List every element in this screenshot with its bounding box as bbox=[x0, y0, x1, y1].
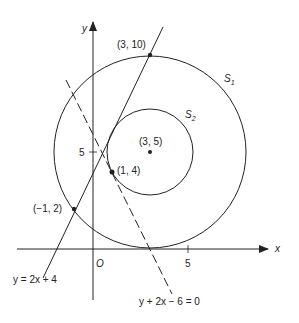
equation-label-solid-line: y = 2x + 4 bbox=[13, 274, 57, 285]
circle-s2-label: S2 bbox=[185, 109, 196, 122]
y-tick-5-label: 5 bbox=[79, 147, 85, 158]
diagram-canvas: y x O 5 5 (3, 10) (3, 5) (1, 4) (−1, 2) … bbox=[0, 0, 299, 323]
circle-s2-label-sub: 2 bbox=[191, 115, 196, 122]
point-label-neg1-2: (−1, 2) bbox=[33, 203, 62, 214]
circle-s1-label-sub: 1 bbox=[231, 79, 235, 86]
y-axis-label: y bbox=[81, 23, 88, 34]
circle-s1-label: S1 bbox=[224, 73, 235, 86]
point-1-4 bbox=[110, 170, 115, 175]
x-axis-label: x bbox=[274, 243, 281, 254]
x-tick-5-label: 5 bbox=[185, 258, 191, 269]
point-label-3-5: (3, 5) bbox=[139, 136, 162, 147]
line-y-eq-2x-plus-4 bbox=[43, 27, 163, 278]
point-3-5 bbox=[148, 150, 152, 154]
point-3-10 bbox=[148, 53, 152, 57]
point-neg1-2 bbox=[72, 207, 76, 211]
point-label-1-4: (1, 4) bbox=[117, 165, 140, 176]
line-y-plus-2x-minus-6 bbox=[66, 80, 172, 294]
equation-label-dashed-line: y + 2x − 6 = 0 bbox=[139, 296, 200, 307]
origin-label: O bbox=[96, 258, 104, 269]
point-label-3-10: (3, 10) bbox=[117, 39, 146, 50]
